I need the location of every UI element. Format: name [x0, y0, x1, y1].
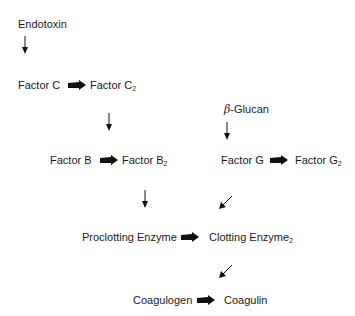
block-arrow-icon — [99, 155, 119, 165]
node-coagulogen: Coagulogen — [133, 294, 192, 307]
node-proclotting-enzyme: Proclotting Enzyme — [82, 231, 177, 244]
node-endotoxin: Endotoxin — [18, 18, 67, 31]
down-arrow-icon — [20, 36, 30, 54]
down-arrow-icon — [140, 190, 150, 208]
node-factor-g2: Factor G2 — [295, 154, 342, 167]
down-arrow-icon — [104, 113, 114, 131]
node-factor-b: Factor B — [50, 154, 92, 167]
node-factor-c: Factor C — [18, 79, 60, 92]
node-clotting-enzyme2: Clotting Enzyme2 — [209, 231, 293, 244]
node-factor-g: Factor G — [221, 154, 264, 167]
node-factor-c2: Factor C2 — [90, 79, 136, 92]
node-factor-b2: Factor B2 — [122, 154, 167, 167]
diagonal-arrow-icon — [218, 264, 234, 280]
node-coagulin: Coagulin — [224, 294, 267, 307]
block-arrow-icon — [67, 80, 87, 90]
block-arrow-icon — [180, 232, 200, 242]
diagonal-arrow-icon — [218, 195, 234, 211]
node-beta-glucan: β-Glucan — [224, 103, 269, 116]
block-arrow-icon — [196, 295, 216, 305]
down-arrow-icon — [222, 122, 232, 140]
block-arrow-icon — [269, 155, 289, 165]
